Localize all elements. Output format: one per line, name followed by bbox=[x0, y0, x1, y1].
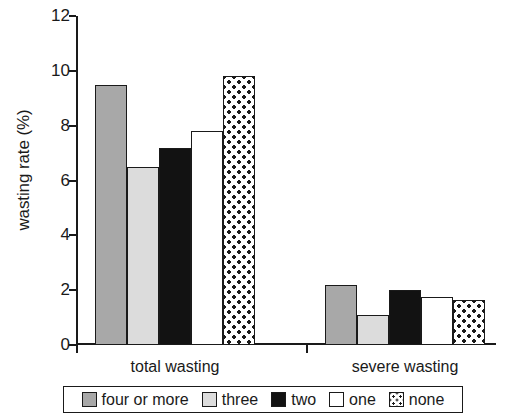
y-tick-label: 2 bbox=[61, 280, 70, 300]
legend-item: four or more bbox=[82, 391, 189, 409]
bar bbox=[191, 131, 223, 345]
y-tick-mark bbox=[69, 289, 76, 291]
swatch-black-icon bbox=[271, 392, 286, 407]
y-tick-mark bbox=[69, 180, 76, 182]
legend-item: none bbox=[389, 391, 445, 409]
y-tick-label: 6 bbox=[61, 171, 70, 191]
swatch-medium-gray-icon bbox=[82, 392, 97, 407]
bar-chart-figure: wasting rate (%) 024681012 total wasting… bbox=[0, 0, 526, 420]
bar bbox=[127, 167, 159, 345]
legend-label: four or more bbox=[102, 391, 189, 409]
bar bbox=[389, 290, 421, 345]
bar bbox=[453, 300, 485, 345]
legend-label: three bbox=[222, 391, 258, 409]
plot-area: 024681012 total wastingsevere wasting bbox=[76, 16, 496, 345]
bar bbox=[325, 285, 357, 345]
bar bbox=[223, 76, 255, 345]
x-tick-mark bbox=[306, 345, 308, 353]
y-tick-mark bbox=[69, 15, 76, 17]
bar bbox=[95, 85, 127, 345]
bar bbox=[357, 315, 389, 345]
y-tick-mark bbox=[69, 70, 76, 72]
y-tick-mark bbox=[69, 344, 76, 346]
x-group-label: total wasting bbox=[131, 358, 220, 376]
y-axis-title: wasting rate (%) bbox=[14, 60, 34, 280]
legend-label: none bbox=[409, 391, 445, 409]
y-tick-label: 4 bbox=[61, 225, 70, 245]
swatch-light-gray-icon bbox=[202, 392, 217, 407]
y-tick-mark bbox=[69, 234, 76, 236]
y-tick-label: 10 bbox=[51, 61, 70, 81]
y-tick-label: 0 bbox=[61, 335, 70, 355]
chart-legend: four or morethreetwoonenone bbox=[63, 386, 463, 413]
y-tick-label: 8 bbox=[61, 116, 70, 136]
swatch-white-icon bbox=[329, 392, 344, 407]
x-group-label: severe wasting bbox=[352, 358, 459, 376]
legend-item: two bbox=[271, 391, 316, 409]
legend-label: one bbox=[349, 391, 376, 409]
y-tick-mark bbox=[69, 125, 76, 127]
bar bbox=[421, 297, 453, 345]
swatch-dotted-icon bbox=[389, 392, 404, 407]
bar bbox=[159, 148, 191, 345]
y-tick-label: 12 bbox=[51, 6, 70, 26]
legend-item: one bbox=[329, 391, 376, 409]
legend-label: two bbox=[291, 391, 316, 409]
legend-item: three bbox=[202, 391, 258, 409]
y-axis-line bbox=[76, 16, 78, 345]
x-tick-mark bbox=[76, 345, 78, 353]
